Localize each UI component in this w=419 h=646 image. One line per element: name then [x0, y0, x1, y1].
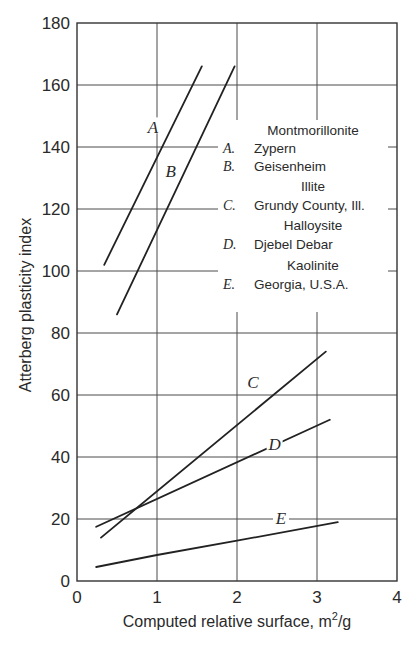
- x-tick-label: 3: [312, 588, 321, 607]
- legend-entry-label: Geisenheim: [254, 159, 326, 174]
- legend-key: E.: [222, 277, 235, 292]
- y-axis-label: Atterberg plasticity index: [17, 218, 34, 392]
- series-lines: [96, 66, 338, 567]
- legend-key: A.: [222, 141, 235, 156]
- curve-label-d: D: [267, 435, 281, 454]
- curve-label-b: B: [165, 162, 176, 181]
- curve-label-e: E: [275, 509, 287, 528]
- series-line-d: [96, 420, 330, 527]
- y-tick-label: 20: [51, 510, 70, 529]
- y-tick-label: 0: [61, 572, 70, 591]
- legend-group-title: Kaolinite: [287, 258, 339, 273]
- legend-entry-label: Georgia, U.S.A.: [254, 277, 349, 292]
- x-tick-label: 1: [152, 588, 161, 607]
- y-tick-label: 180: [42, 14, 70, 33]
- tick-labels: 02040608010012014016018001234: [42, 14, 402, 607]
- y-tick-label: 140: [42, 138, 70, 157]
- legend-group-title: Illite: [301, 179, 325, 194]
- legend-key: C.: [223, 198, 236, 213]
- y-tick-label: 60: [51, 386, 70, 405]
- x-axis-label: Computed relative surface, m2/g: [123, 610, 351, 630]
- y-tick-label: 80: [51, 324, 70, 343]
- legend-entry-label: Djebel Debar: [254, 237, 333, 252]
- x-tick-label: 4: [392, 588, 401, 607]
- x-tick-label: 2: [232, 588, 241, 607]
- legend-entry-label: Grundy County, Ill.: [254, 198, 365, 213]
- grid-lines: [77, 23, 397, 581]
- y-tick-label: 100: [42, 262, 70, 281]
- y-tick-label: 120: [42, 200, 70, 219]
- series-line-e: [96, 522, 338, 567]
- curve-label-a: A: [147, 118, 159, 137]
- y-tick-label: 40: [51, 448, 70, 467]
- chart: 02040608010012014016018001234 ABCDE Mont…: [0, 0, 419, 646]
- legend: MontmorilloniteA.ZypernB.GeisenheimIllit…: [222, 123, 365, 292]
- curve-label-c: C: [247, 373, 259, 392]
- legend-group-title: Halloysite: [284, 218, 343, 233]
- y-tick-label: 160: [42, 76, 70, 95]
- legend-key: D.: [222, 237, 237, 252]
- x-tick-label: 0: [72, 588, 81, 607]
- legend-entry-label: Zypern: [254, 141, 296, 156]
- legend-group-title: Montmorillonite: [267, 123, 359, 138]
- series-line-b: [117, 66, 235, 314]
- legend-key: B.: [223, 159, 235, 174]
- curve-labels: ABCDE: [145, 117, 289, 528]
